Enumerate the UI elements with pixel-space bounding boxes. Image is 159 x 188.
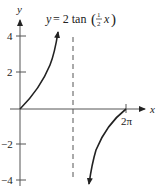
y-axis-label: y [16,3,22,15]
y-tick-label-neg2: −2 [1,138,13,150]
equation-title: y = 2 tan ( 1 2 x ) [45,11,116,28]
y-tick-label-2: 2 [7,66,13,78]
x-axis-label: x [149,103,155,115]
svg-text:): ) [111,11,116,28]
y-tick-label-4: 4 [7,30,13,42]
x-tick-label-2pi: 2π [121,115,133,127]
svg-text:= 2 tan: = 2 tan [53,12,86,26]
svg-text:(: ( [91,11,96,28]
tangent-graph: y x 4 2 −2 −4 2π y = 2 tan ( 1 2 x ) [0,0,159,188]
svg-text:x: x [103,12,110,26]
svg-text:2: 2 [97,20,101,28]
svg-text:1: 1 [97,11,101,19]
y-tick-label-neg4: −4 [1,174,13,186]
svg-text:y: y [45,12,52,26]
curve-left-branch [20,32,58,109]
